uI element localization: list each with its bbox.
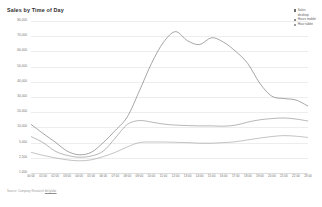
x-axis-tick-label: 19:00 [256,175,264,178]
x-axis-tick-label: 07:00 [111,175,119,178]
x-axis-tick-label: 14:00 [196,175,204,178]
y-axis-tick-label: 50,000 [17,65,27,68]
x-axis-tick-label: 01:00 [39,175,47,178]
x-axis-tick-label: 02:00 [51,175,59,178]
y-axis-tick-label: 70,000 [17,35,27,38]
plot-area [31,21,308,173]
x-axis-tick-label: 09:00 [136,175,144,178]
y-axis-tick-label: 2,500 [19,156,27,159]
x-axis-tick-label: 13:00 [184,175,192,178]
y-axis-tick-label: 40,000 [17,80,27,83]
x-axis-tick-label: 06:00 [99,175,107,178]
x-axis-tick-label: 00:00 [27,175,35,178]
x-axis-tick-label: 03:00 [63,175,71,178]
x-axis-tick-label: 15:00 [208,175,216,178]
x-axis-tick-label: 22:00 [292,175,300,178]
x-axis-tick-label: 12:00 [172,175,180,178]
legend-swatch-icon [294,24,296,26]
x-axis-tick-label: 18:00 [244,175,252,178]
x-axis-tick-label: 05:00 [87,175,95,178]
legend-item-label: Hour tablet [298,23,313,26]
y-axis-tick-label: 20,000 [17,111,27,114]
source-link[interactable]: bit.ly/abc [45,189,57,193]
x-axis-tick-label: 16:00 [220,175,228,178]
x-axis-tick-label: 04:00 [75,175,83,178]
y-axis-tick-label: 80,000 [17,19,27,22]
series-line [31,118,308,157]
x-axis-tick-label: 08:00 [124,175,132,178]
x-axis-tick-label: 20:00 [268,175,276,178]
legend-swatch-icon [294,9,296,11]
series-line [31,136,308,161]
x-axis: 00:0001:0002:0003:0004:0005:0006:0007:00… [31,175,308,183]
legend-swatch-icon [294,19,296,21]
gridline [31,173,308,174]
chart-legend: SalesdesktopHours mobileHour tablet [294,9,316,26]
y-axis-tick-label: 5,000 [19,141,27,144]
y-axis-tick-label: 30,000 [17,95,27,98]
x-axis-tick-label: 21:00 [280,175,288,178]
y-axis-tick-label: 60,000 [17,50,27,53]
chart-container: Sales by Time of Day 80,00070,00060,0005… [0,0,322,207]
x-axis-tick-label: 23:00 [304,175,312,178]
y-axis: 80,00070,00060,00050,00040,00030,00020,0… [0,21,29,173]
legend-item-label: Sales [298,9,306,12]
x-axis-tick-label: 17:00 [232,175,240,178]
y-axis-tick-label: 10,000 [17,126,27,129]
source-note-text: Source: Company Research [7,189,45,193]
series-line [31,32,308,155]
legend-item[interactable]: Hour tablet [294,23,316,26]
x-axis-tick-label: 10:00 [148,175,156,178]
x-axis-tick-label: 11:00 [160,175,167,178]
series-layer [31,21,308,173]
chart-title: Sales by Time of Day [7,7,64,13]
legend-item[interactable]: Sales [294,9,316,12]
y-axis-tick-label: 1,000 [19,171,27,174]
source-note: Source: Company Research bit.ly/abc [7,190,57,193]
